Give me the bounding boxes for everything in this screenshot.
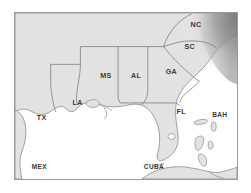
lake-okeechobee [168, 134, 175, 140]
bahama-island-4 [208, 141, 213, 149]
label-tx: TX [37, 114, 47, 122]
label-fl: FL [177, 108, 187, 116]
label-mex: MEX [32, 163, 47, 170]
label-ga: GA [166, 68, 177, 76]
label-sc: SC [184, 43, 195, 51]
bahama-island-2 [211, 122, 216, 132]
label-bah: BAH [212, 111, 227, 118]
label-nc: NC [190, 21, 201, 29]
map-frame: TX LA MS AL GA SC NC FL BAH MEX CUBA [14, 12, 238, 180]
label-la: LA [72, 99, 82, 107]
label-cuba: CUBA [144, 163, 164, 170]
label-ms: MS [100, 72, 111, 80]
map-figure: TX LA MS AL GA SC NC FL BAH MEX CUBA [0, 0, 251, 193]
map-canvas: TX LA MS AL GA SC NC FL BAH MEX CUBA [15, 13, 237, 179]
label-al: AL [131, 72, 141, 80]
